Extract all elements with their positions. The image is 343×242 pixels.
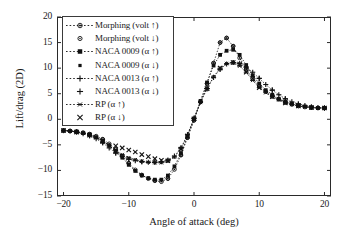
x-axis-title: Angle of attack (deg) — [57, 216, 331, 227]
legend-item: RP (α ↑) — [65, 98, 171, 111]
legend-item: NACA 0013 (α ↑) — [65, 72, 171, 85]
chart-legend: Morphing (volt ↑)Morphing (volt ↓)NACA 0… — [62, 16, 174, 126]
y-tick-label: 10 — [26, 62, 52, 72]
legend-marker-square-icon — [65, 45, 95, 58]
legend-label: Morphing (volt ↑) — [95, 19, 158, 32]
y-tick-label: −5 — [26, 139, 52, 149]
legend-label: NACA 0013 (α ↓) — [95, 85, 158, 98]
x-tick-label: −20 — [49, 199, 79, 209]
legend-item: NACA 0009 (α ↓) — [65, 59, 171, 72]
legend-item: Morphing (volt ↑) — [65, 19, 171, 32]
x-tick-label: −10 — [114, 199, 144, 209]
y-tick-label: 5 — [26, 88, 52, 98]
legend-item: RP (α ↓) — [65, 111, 171, 124]
legend-marker-cross-icon — [65, 111, 95, 124]
legend-label: NACA 0009 (α ↓) — [95, 59, 158, 72]
legend-label: Morphing (volt ↓) — [95, 32, 158, 45]
legend-marker-plus-icon — [65, 85, 95, 98]
legend-label: NACA 0009 (α ↑) — [95, 45, 158, 58]
legend-marker-circle-dot-icon — [65, 19, 95, 32]
legend-item: NACA 0009 (α ↑) — [65, 45, 171, 58]
legend-item: Morphing (volt ↓) — [65, 32, 171, 45]
legend-label: RP (α ↑) — [95, 98, 125, 111]
legend-marker-plus-icon — [65, 72, 95, 85]
legend-label: NACA 0013 (α ↑) — [95, 72, 158, 85]
x-tick-label: 20 — [309, 199, 339, 209]
x-tick-label: 10 — [244, 199, 274, 209]
legend-label: RP (α ↓) — [95, 111, 125, 124]
y-tick-label: 15 — [26, 37, 52, 47]
y-tick-label: 20 — [26, 11, 52, 21]
y-tick-label: 0 — [26, 113, 52, 123]
legend-marker-open-circle-icon — [65, 32, 95, 45]
chart-figure: −15−10−505101520 −20−1001020 Lift/drag (… — [0, 0, 343, 242]
legend-marker-small-square-icon — [65, 59, 95, 72]
x-tick-label: 0 — [179, 199, 209, 209]
legend-item: NACA 0013 (α ↓) — [65, 85, 171, 98]
y-axis-title: Lift/drag (2D) — [14, 49, 25, 149]
legend-marker-asterisk-icon — [65, 98, 95, 111]
y-tick-label: −10 — [26, 164, 52, 174]
